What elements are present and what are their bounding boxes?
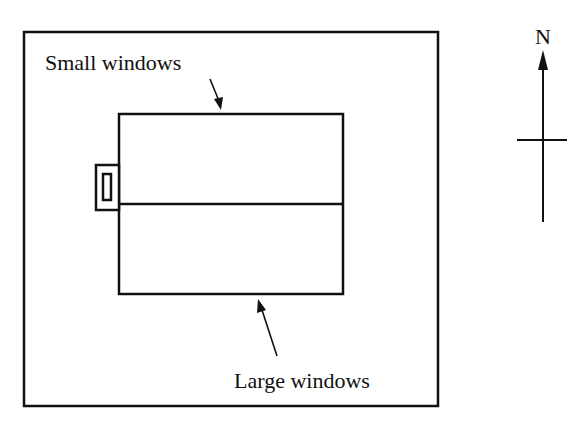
- entrance-box: [96, 165, 119, 210]
- small-windows-label: Small windows: [45, 50, 181, 75]
- large-windows-label: Large windows: [234, 368, 370, 393]
- north-arrow-icon: N: [517, 24, 567, 222]
- north-label: N: [535, 24, 551, 49]
- site-boundary: [24, 32, 438, 406]
- small-windows-arrow: [210, 79, 223, 110]
- floor-plan-diagram: Small windows Large windows N: [0, 0, 578, 424]
- large-windows-arrow: [257, 299, 277, 356]
